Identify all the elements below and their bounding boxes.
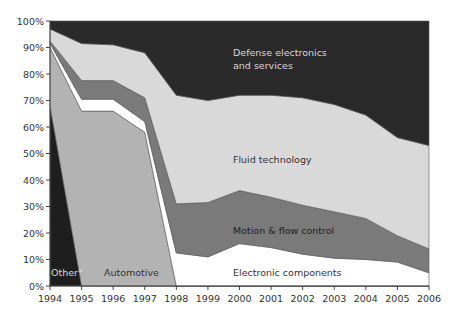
x-tick-label: 2005 [385,293,409,304]
x-tick-label: 1999 [196,293,220,304]
y-tick-label: 20% [23,228,44,239]
y-tick-label: 100% [17,16,44,27]
label-other: Other* [51,267,83,278]
label-motion-flow-control: Motion & flow control [233,225,334,236]
y-tick-label: 30% [23,201,44,212]
label-electronic-components: Electronic components [233,267,342,278]
label-defense-line1: Defense electronics [233,47,327,58]
y-tick-label: 60% [23,122,44,133]
label-defense-line2: and services [233,60,293,71]
x-tick-label: 1996 [101,293,125,304]
y-tick-label: 90% [23,42,44,53]
x-tick-label: 2003 [322,293,346,304]
x-tick-label: 1997 [133,293,157,304]
x-tick-label: 2001 [259,293,283,304]
y-tick-label: 40% [23,175,44,186]
label-fluid-technology: Fluid technology [233,154,312,165]
x-tick-label: 1994 [38,293,62,304]
x-tick-label: 2006 [417,293,441,304]
x-tick-label: 1998 [164,293,188,304]
x-tick-label: 1995 [69,293,93,304]
x-tick-label: 2000 [227,293,251,304]
y-tick-label: 0% [29,281,44,292]
x-tick-label: 2002 [291,293,315,304]
y-axis: 0%10%20%30%40%50%60%70%80%90%100% [17,16,50,292]
y-tick-label: 10% [23,254,44,265]
x-tick-label: 2004 [354,293,378,304]
y-tick-label: 80% [23,69,44,80]
y-tick-label: 50% [23,148,44,159]
label-automotive: Automotive [104,267,159,278]
y-tick-label: 70% [23,95,44,106]
x-axis: 1994199519961997199819992000200120022003… [38,286,441,304]
stacked-area-chart: 0%10%20%30%40%50%60%70%80%90%100% 199419… [0,0,456,321]
